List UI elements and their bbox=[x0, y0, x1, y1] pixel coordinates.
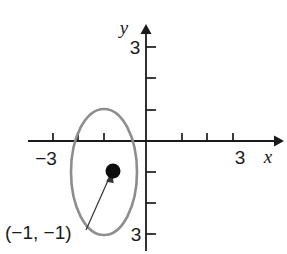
annotation-leader-line bbox=[86, 176, 110, 230]
point-caption: (−1, −1) bbox=[5, 222, 72, 243]
y-tick-label-3: 3 bbox=[130, 37, 141, 58]
coordinate-plane: y x −3 3 3 3 (−1, −1) bbox=[0, 0, 287, 254]
ellipse-curve bbox=[71, 109, 137, 235]
y-axis-arrow-icon bbox=[141, 24, 152, 34]
center-point-marker bbox=[106, 164, 121, 179]
y-tick-label--3: 3 bbox=[131, 224, 142, 245]
y-axis-label: y bbox=[118, 17, 129, 38]
x-tick-label--3: −3 bbox=[35, 148, 57, 169]
x-axis-label: x bbox=[263, 146, 273, 167]
x-tick-label-3: 3 bbox=[235, 147, 246, 168]
x-axis-arrow-icon bbox=[274, 136, 284, 147]
ellipse-graph-figure: y x −3 3 3 3 (−1, −1) bbox=[0, 0, 287, 254]
